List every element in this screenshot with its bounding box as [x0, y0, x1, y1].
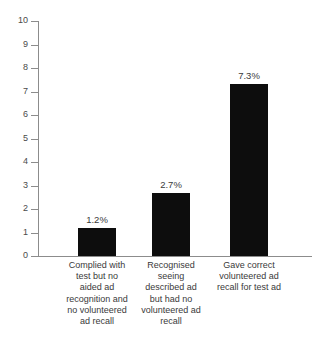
category-label-line: described ad — [131, 282, 211, 293]
category-label-line: aided ad — [54, 282, 140, 293]
x-axis-category-labels: Complied withtest but noaided adrecognit… — [38, 260, 312, 340]
category-label-line: volunteered ad — [131, 305, 211, 316]
y-axis-tick-label: 3 — [8, 181, 28, 190]
y-axis-tick-label: 1 — [8, 228, 28, 237]
category-label: Recognisedseeingdescribed adbut had novo… — [131, 260, 211, 327]
y-axis-tick-label: 9 — [8, 40, 28, 49]
bar-chart: 012345678910 1.2%2.7%7.3% Complied witht… — [0, 0, 332, 342]
y-axis-tick — [31, 162, 38, 163]
category-label-line: Complied with — [54, 260, 140, 271]
category-label-line: Gave correct — [203, 260, 295, 271]
bar — [230, 84, 268, 256]
bar — [78, 228, 116, 256]
y-axis-tick — [31, 139, 38, 140]
category-label: Gave correctvolunteered adrecall for tes… — [203, 260, 295, 294]
y-axis-tick-label: 2 — [8, 204, 28, 213]
category-label-line: recognition and — [54, 294, 140, 305]
category-label-line: ad recall — [54, 316, 140, 327]
y-axis-tick-label: 4 — [8, 157, 28, 166]
y-axis-tick — [31, 209, 38, 210]
bar-value-label: 1.2% — [66, 215, 128, 225]
y-axis-tick — [31, 256, 38, 257]
category-label-line: but had no — [131, 294, 211, 305]
bar-value-label: 2.7% — [140, 180, 202, 190]
bar-value-label: 7.3% — [218, 71, 280, 81]
y-axis-tick — [31, 21, 38, 22]
y-axis-tick — [31, 233, 38, 234]
x-axis-line — [38, 256, 312, 257]
category-label-line: recall — [131, 316, 211, 327]
y-axis-tick-label: 6 — [8, 110, 28, 119]
category-label-line: Recognised — [131, 260, 211, 271]
category-label-line: test but no — [54, 271, 140, 282]
y-axis-tick-label: 10 — [8, 16, 28, 25]
bar — [152, 193, 190, 256]
y-axis-tick — [31, 115, 38, 116]
category-label-line: no volunteered — [54, 305, 140, 316]
category-label-line: recall for test ad — [203, 282, 295, 293]
y-axis-tick-label: 0 — [8, 251, 28, 260]
category-label-line: volunteered ad — [203, 271, 295, 282]
category-label-line: seeing — [131, 271, 211, 282]
y-axis-tick-label: 8 — [8, 63, 28, 72]
y-axis-tick-label: 7 — [8, 87, 28, 96]
y-axis-tick — [31, 92, 38, 93]
y-axis-tick — [31, 45, 38, 46]
y-axis-tick-label: 5 — [8, 134, 28, 143]
category-label: Complied withtest but noaided adrecognit… — [54, 260, 140, 327]
y-axis-tick — [31, 186, 38, 187]
y-axis-tick — [31, 68, 38, 69]
plot-area: 1.2%2.7%7.3% — [38, 20, 312, 256]
